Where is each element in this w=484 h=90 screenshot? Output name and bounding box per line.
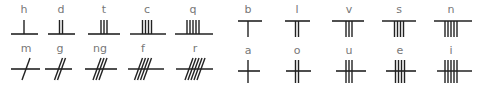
letter-label-ng: ng	[93, 43, 107, 54]
ogham-glyph-u	[336, 60, 366, 83]
ogham-glyph-c	[130, 20, 166, 34]
letter-label-q: q	[190, 4, 197, 15]
letter-label-f: f	[141, 43, 145, 54]
letter-label-s: s	[396, 4, 402, 15]
ogham-glyph-s	[382, 21, 416, 37]
ogham-chart: hdtcqmgngfrblvsnaouei	[0, 0, 484, 90]
letter-label-g: g	[57, 43, 64, 54]
ogham-glyph-t	[88, 20, 120, 34]
ogham-glyph-m	[11, 58, 40, 80]
letter-label-e: e	[397, 45, 404, 56]
ogham-glyph-f	[128, 58, 164, 80]
ogham-glyph-b	[238, 21, 262, 37]
ogham-glyph-v	[332, 21, 364, 37]
ogham-glyph-e	[386, 60, 416, 83]
ogham-glyph-i	[437, 60, 472, 83]
ogham-glyph-ng	[85, 58, 117, 80]
ogham-glyph-o	[286, 60, 311, 83]
ogham-glyph-n	[434, 21, 472, 37]
letter-label-t: t	[102, 4, 106, 15]
letter-label-v: v	[346, 4, 353, 15]
letter-label-m: m	[21, 43, 32, 54]
letter-label-n: n	[448, 4, 455, 15]
letter-label-a: a	[245, 45, 252, 56]
ogham-glyph-h	[11, 20, 38, 34]
letter-label-b: b	[245, 4, 252, 15]
ogham-glyph-l	[285, 21, 310, 37]
letter-label-c: c	[144, 4, 150, 15]
letter-label-r: r	[193, 43, 198, 54]
letter-label-l: l	[295, 4, 298, 15]
letter-label-i: i	[449, 45, 452, 56]
ogham-glyph-r	[176, 58, 213, 80]
ogham-glyph-a	[238, 60, 260, 83]
ogham-glyph-q	[175, 20, 213, 34]
ogham-glyph-g	[45, 58, 72, 80]
ogham-glyph-d	[48, 20, 75, 34]
ogham-strokes-canvas	[0, 0, 484, 90]
letter-label-u: u	[346, 45, 353, 56]
letter-label-d: d	[58, 4, 65, 15]
letter-label-h: h	[21, 4, 28, 15]
letter-label-o: o	[294, 45, 301, 56]
